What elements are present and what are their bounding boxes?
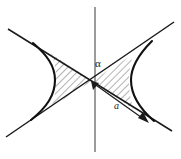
angle-alpha-label: α bbox=[95, 58, 101, 69]
figure-canvas bbox=[0, 0, 181, 159]
vector-a-label: a bbox=[114, 101, 119, 111]
hyperbola-figure: α a bbox=[0, 0, 181, 159]
hyperbola-branch-right bbox=[131, 41, 154, 121]
right-hatched-region bbox=[80, 40, 150, 125]
